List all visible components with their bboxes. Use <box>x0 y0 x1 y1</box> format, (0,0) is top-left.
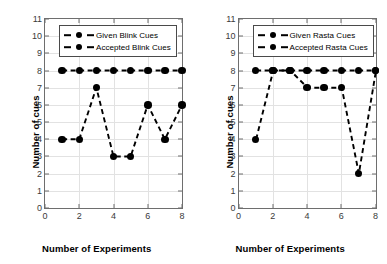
y-axis-tick-label: 7 <box>230 83 235 93</box>
data-point-marker <box>372 67 380 75</box>
y-axis-tick-label: 9 <box>230 48 235 58</box>
data-point-marker <box>58 67 66 75</box>
legend-marker-icon <box>76 44 82 50</box>
x-axis-label-right: Number of Experiments <box>194 243 387 254</box>
legend-marker-icon <box>270 44 276 50</box>
y-axis-tick-label: 8 <box>37 66 42 76</box>
y-axis-tick-mark <box>372 104 376 105</box>
data-point-marker <box>161 136 169 144</box>
y-axis-tick-mark <box>239 53 243 54</box>
x-axis-tick-mark <box>307 19 308 23</box>
legend-label: Accepted Rasta Cues <box>290 43 368 52</box>
x-axis-tick-label: 8 <box>179 211 184 221</box>
x-axis-tick-mark <box>113 204 114 208</box>
y-axis-tick-label: 6 <box>230 100 235 110</box>
x-axis-tick-mark <box>307 204 308 208</box>
x-axis-tick-mark <box>341 19 342 23</box>
y-axis-tick-label: 1 <box>37 186 42 196</box>
y-axis-tick-label: 3 <box>37 151 42 161</box>
x-axis-tick-label: 4 <box>304 211 309 221</box>
x-axis-tick-label: 4 <box>111 211 116 221</box>
legend-entry-accepted: Accepted Blink Cues <box>64 41 171 53</box>
y-axis-tick-mark <box>45 156 49 157</box>
y-axis-tick-mark <box>239 36 243 37</box>
y-axis-tick-label: 8 <box>230 66 235 76</box>
chart-panel-left: Number of cues Number of Experiments Giv… <box>0 0 194 264</box>
x-axis-tick-label: 2 <box>270 211 275 221</box>
y-axis-tick-mark <box>239 139 243 140</box>
y-axis-tick-mark <box>239 173 243 174</box>
y-axis-tick-label: 5 <box>37 117 42 127</box>
data-point-marker <box>76 67 84 75</box>
data-point-marker <box>338 84 346 92</box>
x-axis-tick-label: 8 <box>373 211 378 221</box>
plot-area-left: Given Blink Cues Accepted Blink Cues 012… <box>44 18 183 209</box>
y-axis-tick-label: 0 <box>37 203 42 213</box>
figure-container: Number of cues Number of Experiments Giv… <box>0 0 387 264</box>
legend-line-icon <box>258 30 288 40</box>
legend-label: Given Blink Cues <box>96 31 158 40</box>
x-axis-tick-mark <box>182 204 183 208</box>
y-axis-tick-label: 1 <box>230 186 235 196</box>
y-axis-tick-mark <box>178 122 182 123</box>
legend-line-icon <box>64 42 94 52</box>
legend-entry-given: Given Blink Cues <box>64 29 171 41</box>
chart-panel-right: Number of cues Number of Experiments Giv… <box>194 0 387 264</box>
y-axis-tick-mark <box>239 156 243 157</box>
x-axis-tick-label: 0 <box>236 211 241 221</box>
data-point-marker <box>93 84 101 92</box>
data-point-marker <box>355 170 363 178</box>
plot-area-right: Given Rasta Cues Accepted Rasta Cues 012… <box>238 18 377 209</box>
y-axis-tick-mark <box>45 190 49 191</box>
x-axis-tick-mark <box>272 19 273 23</box>
data-point-marker <box>127 67 135 75</box>
y-axis-tick-label: 11 <box>33 14 42 24</box>
data-point-marker <box>286 67 294 75</box>
y-axis-tick-mark <box>239 208 243 209</box>
legend-marker-icon <box>270 32 276 38</box>
data-point-marker <box>76 136 84 144</box>
y-axis-tick-mark <box>178 87 182 88</box>
y-axis-tick-label: 3 <box>230 151 235 161</box>
x-axis-tick-mark <box>79 19 80 23</box>
legend-line-icon <box>258 42 288 52</box>
y-axis-tick-mark <box>45 104 49 105</box>
x-axis-tick-mark <box>79 204 80 208</box>
data-point-marker <box>252 67 260 75</box>
y-axis-tick-mark <box>45 53 49 54</box>
legend-left: Given Blink Cues Accepted Blink Cues <box>59 25 177 57</box>
x-axis-tick-mark <box>238 19 239 23</box>
y-axis-tick-mark <box>372 156 376 157</box>
x-axis-tick-mark <box>375 204 376 208</box>
y-axis-tick-mark <box>178 36 182 37</box>
y-axis-tick-label: 2 <box>230 169 235 179</box>
y-axis-tick-mark <box>45 36 49 37</box>
data-point-marker <box>127 153 135 161</box>
legend-entry-accepted: Accepted Rasta Cues <box>258 41 368 53</box>
data-point-marker <box>58 136 66 144</box>
y-axis-tick-label: 11 <box>226 14 235 24</box>
data-point-marker <box>178 67 186 75</box>
legend-label: Accepted Blink Cues <box>96 43 171 52</box>
y-axis-tick-label: 9 <box>37 48 42 58</box>
y-axis-tick-mark <box>45 139 49 140</box>
y-axis-tick-mark <box>178 173 182 174</box>
y-axis-tick-label: 2 <box>37 169 42 179</box>
x-axis-tick-label: 6 <box>339 211 344 221</box>
x-axis-tick-mark <box>375 19 376 23</box>
x-axis-tick-mark <box>341 204 342 208</box>
data-point-marker <box>320 84 328 92</box>
data-point-marker <box>161 67 169 75</box>
y-axis-tick-mark <box>239 19 243 20</box>
y-axis-tick-label: 5 <box>230 117 235 127</box>
y-axis-tick-mark <box>239 87 243 88</box>
x-axis-tick-mark <box>238 204 239 208</box>
data-point-marker <box>269 67 277 75</box>
legend-marker-icon <box>76 32 82 38</box>
y-axis-tick-mark <box>372 190 376 191</box>
y-axis-tick-label: 6 <box>37 100 42 110</box>
y-axis-tick-mark <box>372 139 376 140</box>
y-axis-tick-label: 4 <box>230 134 235 144</box>
legend-entry-given: Given Rasta Cues <box>258 29 368 41</box>
y-axis-tick-label: 7 <box>37 83 42 93</box>
